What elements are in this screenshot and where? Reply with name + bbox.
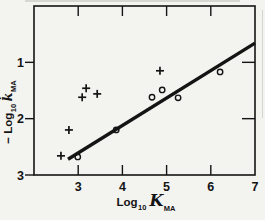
figure-page: 34567123Log10KMA− Log10k̇MA	[0, 0, 265, 220]
circle-marker	[159, 87, 164, 92]
fit-line	[68, 43, 255, 159]
circle-marker	[217, 69, 222, 74]
y-tick-label: 1	[17, 56, 24, 70]
circle-marker	[149, 95, 154, 100]
scan-artifact-top	[25, 0, 240, 2]
y-axis-label: − Log10k̇MA	[0, 80, 18, 144]
scatter-plot: 34567123Log10KMA− Log10k̇MA	[0, 0, 265, 220]
x-tick-label: 5	[163, 180, 170, 194]
plot-frame	[34, 6, 255, 175]
y-tick-label: 3	[17, 169, 24, 183]
x-axis-label: Log10KMA	[117, 191, 177, 213]
y-tick-label: 2	[17, 112, 24, 126]
x-tick-label: 3	[75, 180, 82, 194]
circle-marker	[175, 95, 180, 100]
x-tick-label: 4	[119, 180, 126, 194]
x-tick-label: 6	[207, 180, 214, 194]
x-tick-label: 7	[252, 180, 259, 194]
